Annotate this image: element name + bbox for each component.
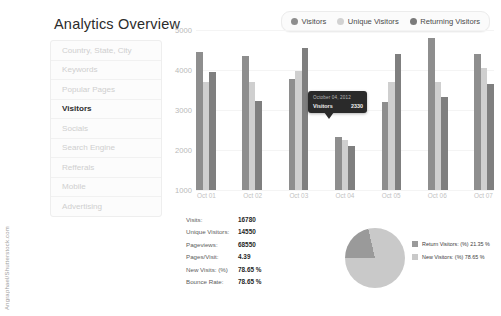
sidebar-item-label: Popular Pages: [62, 85, 115, 94]
bar-group[interactable]: [289, 30, 309, 190]
legend-label: Visitors: [302, 17, 327, 26]
stat-value: 14550: [238, 228, 256, 235]
sidebar-item-socials[interactable]: Socials: [51, 119, 161, 139]
y-axis-tick: 4000: [175, 66, 192, 75]
stat-value: 4.39: [238, 253, 250, 260]
stat-label: Pageviews:: [186, 241, 238, 248]
bar-group[interactable]: [382, 30, 402, 190]
stat-row: Pageviews:68550: [186, 241, 282, 253]
y-axis-tick: 2000: [175, 146, 192, 155]
sidebar-item-label: Mobile: [62, 182, 86, 191]
sidebar-item-label: Country, State, City: [62, 46, 132, 55]
x-axis-tick: Oct 05: [381, 192, 402, 199]
analytics-dashboard: Analytics Overview VisitorsUnique Visito…: [0, 0, 501, 316]
x-axis-tick: Oct 02: [242, 192, 263, 199]
x-axis-tick: Oct 04: [334, 192, 355, 199]
stat-value: 78.65 %: [238, 266, 261, 273]
y-axis-tick: 5000: [175, 26, 192, 35]
legend-dot-icon: [337, 18, 344, 25]
sidebar-item-search-engine[interactable]: Search Engine: [51, 139, 161, 159]
x-axis-tick: Oct 07: [473, 192, 494, 199]
bar-group[interactable]: [428, 30, 448, 190]
bar-returning-visitors[interactable]: [255, 101, 262, 190]
sidebar-item-keywords[interactable]: Keywords: [51, 61, 161, 81]
watermark: Angraphael/Shutterstock.com: [4, 226, 10, 310]
page-title: Analytics Overview: [54, 16, 180, 32]
bar-returning-visitors[interactable]: [348, 146, 355, 190]
x-axis-tick: Oct 06: [427, 192, 448, 199]
pie-legend-item[interactable]: Return Visitors: (%) 21.35 %: [412, 237, 490, 250]
sidebar-item-country-state-city[interactable]: Country, State, City: [51, 41, 161, 61]
tooltip-row: Visitors 2330: [313, 103, 363, 109]
x-axis-tick: Oct 03: [288, 192, 309, 199]
sidebar-item-popular-pages[interactable]: Popular Pages: [51, 80, 161, 100]
legend-label: Returning Visitors: [420, 17, 480, 26]
y-axis-tick: 1000: [175, 186, 192, 195]
stat-label: Bounce Rate:: [186, 278, 238, 285]
legend-item[interactable]: Unique Visitors: [337, 17, 398, 26]
sidebar-item-label: Refferals: [62, 163, 94, 172]
stat-value: 78.65 %: [238, 278, 261, 285]
pie-swatch-icon: [412, 254, 418, 260]
stat-row: Bounce Rate:78.65 %: [186, 278, 282, 290]
y-axis: 10002000300040005000: [168, 30, 194, 190]
y-axis-tick: 3000: [175, 106, 192, 115]
sidebar-item-visitors[interactable]: Visitors: [51, 100, 161, 120]
stat-label: New Visits: (%): [186, 266, 238, 273]
x-axis: Oct 01Oct 02Oct 03Oct 04Oct 05Oct 06Oct …: [196, 192, 494, 199]
sidebar-item-label: Socials: [62, 124, 88, 133]
legend-dot-icon: [410, 18, 417, 25]
pie-legend: Return Visitors: (%) 21.35 %New Visitors…: [412, 237, 490, 263]
bar-returning-visitors[interactable]: [209, 72, 216, 190]
bar-returning-visitors[interactable]: [441, 97, 448, 190]
chart-legend: VisitorsUnique VisitorsReturning Visitor…: [281, 11, 490, 32]
chart-tooltip: October 04, 2012 Visitors 2330: [308, 91, 367, 113]
sidebar-item-refferals[interactable]: Refferals: [51, 158, 161, 178]
stat-value: 16780: [238, 216, 256, 223]
visitors-pie-chart: [345, 228, 405, 288]
stat-row: Unique Visitors:14550: [186, 228, 282, 240]
stat-row: Pages/Visit:4.39: [186, 253, 282, 265]
bar-returning-visitors[interactable]: [395, 54, 402, 190]
sidebar-item-advertising[interactable]: Advertising: [51, 197, 161, 216]
bar-group[interactable]: [474, 30, 494, 190]
pie-swatch-icon: [412, 241, 418, 247]
stat-row: New Visits: (%)78.65 %: [186, 266, 282, 278]
tooltip-metric-value: 2330: [351, 103, 363, 109]
sidebar-item-mobile[interactable]: Mobile: [51, 178, 161, 198]
legend-item[interactable]: Visitors: [291, 17, 326, 26]
visitors-bar-chart: 10002000300040005000 Oct 01Oct 02Oct 03O…: [168, 30, 494, 210]
tooltip-date: October 04, 2012: [313, 95, 363, 100]
stat-row: Visits:16780: [186, 216, 282, 228]
bar-returning-visitors[interactable]: [302, 48, 309, 190]
stat-value: 68550: [238, 241, 256, 248]
x-axis-tick: Oct 01: [196, 192, 217, 199]
legend-dot-icon: [291, 18, 298, 25]
legend-item[interactable]: Returning Visitors: [410, 17, 480, 26]
stat-label: Visits:: [186, 216, 238, 223]
sidebar-item-label: Search Engine: [62, 143, 115, 152]
sidebar-item-label: Keywords: [62, 65, 98, 74]
sidebar-item-label: Advertising: [62, 202, 102, 211]
gridline: [196, 190, 494, 191]
pie-legend-label: New Visitors: (%) 78.65 %: [422, 254, 485, 260]
pie-legend-label: Return Visitors: (%) 21.35 %: [422, 241, 490, 247]
legend-label: Unique Visitors: [348, 17, 399, 26]
stat-label: Pages/Visit:: [186, 253, 238, 260]
sidebar-nav: Country, State, CityKeywordsPopular Page…: [50, 40, 162, 217]
bar-returning-visitors[interactable]: [487, 84, 494, 190]
bar-group[interactable]: [196, 30, 216, 190]
bar-group[interactable]: [242, 30, 262, 190]
stats-panel: Visits:16780Unique Visitors:14550Pagevie…: [186, 216, 282, 290]
sidebar-item-label: Visitors: [62, 104, 92, 113]
tooltip-metric-label: Visitors: [313, 103, 333, 109]
pie-legend-item[interactable]: New Visitors: (%) 78.65 %: [412, 250, 490, 263]
stat-label: Unique Visitors:: [186, 228, 238, 235]
